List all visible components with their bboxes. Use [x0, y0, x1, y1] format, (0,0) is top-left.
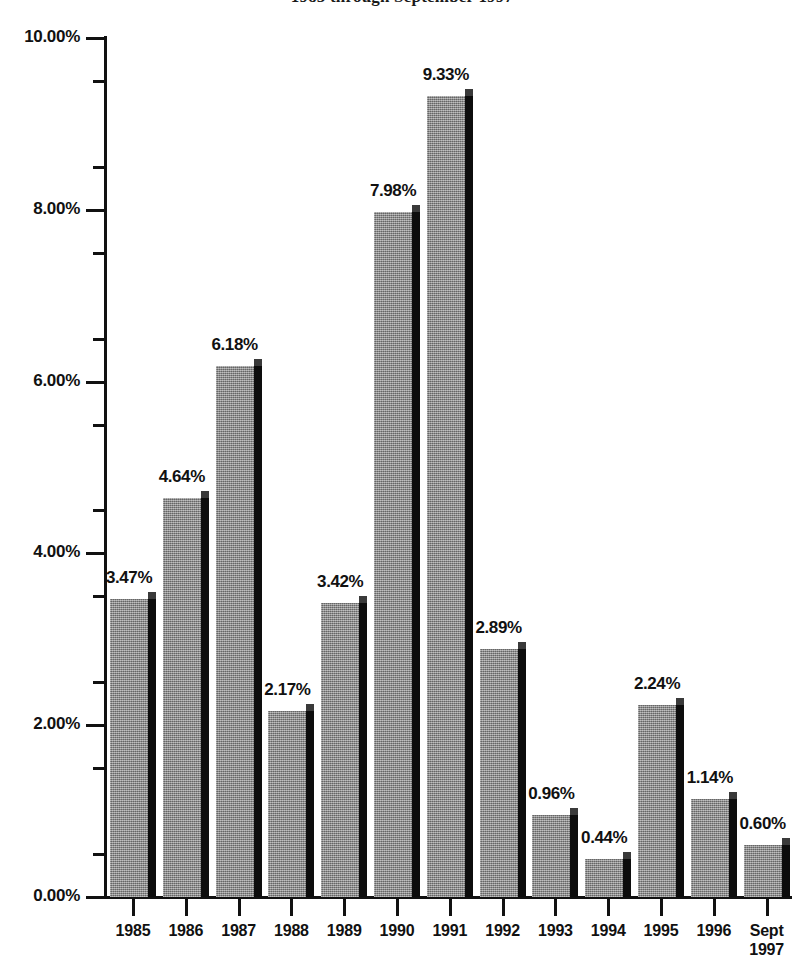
bar-front-face	[110, 599, 148, 897]
bar-1993[interactable]: 0.96%	[532, 808, 578, 897]
bar-top-face	[729, 792, 737, 799]
bar-front-face	[216, 366, 254, 897]
bar-chart-plot-area: 0.00%2.00%4.00%6.00%8.00%10.00% 19851986…	[0, 0, 804, 978]
bar-1989[interactable]: 3.42%	[321, 596, 367, 897]
y-axis-minor-tick	[93, 424, 105, 427]
y-axis-tick-label: 4.00%	[33, 542, 80, 562]
bar-side-face	[412, 212, 420, 897]
bar-side-face	[782, 845, 790, 897]
bar-side-face	[518, 649, 526, 897]
x-axis-tick	[502, 899, 505, 916]
x-axis-tick	[713, 899, 716, 916]
bar-front-face	[744, 845, 782, 897]
y-axis-major-tick	[86, 381, 105, 384]
bar-value-label: 1.14%	[677, 768, 743, 788]
y-axis-major-tick	[86, 724, 105, 727]
bar-front-face	[480, 649, 518, 897]
bar-top-face	[412, 205, 420, 212]
y-axis-tick-label: 0.00%	[33, 886, 80, 906]
bar-1991[interactable]: 9.33%	[427, 89, 473, 897]
x-axis-tick	[132, 899, 135, 916]
bar-front-face	[638, 705, 676, 897]
bar-1987[interactable]: 6.18%	[216, 359, 262, 897]
bar-side-face	[623, 859, 631, 897]
bar-1995[interactable]: 2.24%	[638, 698, 684, 897]
bar-value-label: 0.96%	[518, 784, 584, 804]
bar-value-label: 7.98%	[360, 181, 426, 201]
bar-1996[interactable]: 1.14%	[691, 792, 737, 897]
y-axis-minor-tick	[93, 338, 105, 341]
x-axis-tick	[660, 899, 663, 916]
bar-top-face	[359, 596, 367, 603]
bar-value-label: 2.89%	[466, 618, 532, 638]
bar-1988[interactable]: 2.17%	[268, 704, 314, 897]
bar-side-face	[201, 498, 209, 897]
bar-front-face	[321, 603, 359, 897]
bar-value-label: 3.42%	[307, 572, 373, 592]
bar-top-face	[306, 704, 314, 711]
y-axis-minor-tick	[93, 853, 105, 856]
bar-front-face	[163, 498, 201, 897]
y-axis-minor-tick	[93, 681, 105, 684]
x-axis-tick	[449, 899, 452, 916]
bar-side-face	[254, 366, 262, 897]
bar-value-label: 0.44%	[571, 828, 637, 848]
bar-top-face	[570, 808, 578, 815]
y-axis-minor-tick	[93, 595, 105, 598]
y-axis-minor-tick	[93, 80, 105, 83]
x-axis-tick	[290, 899, 293, 916]
bar-value-label: 4.64%	[149, 467, 215, 487]
x-axis-tick	[396, 899, 399, 916]
bar-side-face	[359, 603, 367, 897]
bar-top-face	[254, 359, 262, 366]
bar-front-face	[427, 96, 465, 897]
y-axis-major-tick	[86, 37, 105, 40]
x-axis-tick	[185, 899, 188, 916]
bar-top-face	[782, 838, 790, 845]
y-axis-minor-tick	[93, 166, 105, 169]
y-axis-major-tick	[86, 209, 105, 212]
bar-front-face	[374, 212, 412, 897]
bar-1990[interactable]: 7.98%	[374, 205, 420, 897]
bar-top-face	[623, 852, 631, 859]
bar-side-face	[570, 815, 578, 897]
y-axis-major-tick	[86, 896, 105, 899]
bar-side-face	[306, 711, 314, 897]
bar-top-face	[518, 642, 526, 649]
x-axis-tick	[607, 899, 610, 916]
x-axis-tick	[554, 899, 557, 916]
y-axis-minor-tick	[93, 509, 105, 512]
y-axis-minor-tick	[93, 767, 105, 770]
bar-front-face	[691, 799, 729, 897]
y-axis-tick-label: 2.00%	[33, 714, 80, 734]
bar-side-face	[465, 96, 473, 897]
bar-value-label: 9.33%	[413, 65, 479, 85]
y-axis-tick-label: 10.00%	[24, 27, 80, 47]
y-axis-tick-label: 8.00%	[33, 199, 80, 219]
bar-side-face	[676, 705, 684, 897]
bar-value-label: 6.18%	[202, 335, 268, 355]
bar-top-face	[676, 698, 684, 705]
x-axis-tick	[343, 899, 346, 916]
bar-value-label: 2.24%	[624, 674, 690, 694]
x-axis-tick	[766, 899, 769, 916]
y-axis-minor-tick	[93, 252, 105, 255]
bar-front-face	[268, 711, 306, 897]
bar-1986[interactable]: 4.64%	[163, 491, 209, 897]
bar-1992[interactable]: 2.89%	[480, 642, 526, 897]
y-axis-tick-label: 6.00%	[33, 371, 80, 391]
bar-top-face	[201, 491, 209, 498]
bar-value-label: 2.17%	[254, 680, 320, 700]
x-axis-tick	[238, 899, 241, 916]
bar-top-face	[465, 89, 473, 96]
bar-sept-1997[interactable]: 0.60%	[744, 838, 790, 897]
bar-1985[interactable]: 3.47%	[110, 592, 156, 897]
bar-front-face	[585, 859, 623, 897]
bar-top-face	[148, 592, 156, 599]
bar-front-face	[532, 815, 570, 897]
y-axis-major-tick	[86, 552, 105, 555]
bar-value-label: 0.60%	[730, 814, 796, 834]
x-axis-category-label: Sept 1997	[729, 921, 804, 959]
bar-1994[interactable]: 0.44%	[585, 852, 631, 897]
bar-value-label: 3.47%	[96, 568, 162, 588]
